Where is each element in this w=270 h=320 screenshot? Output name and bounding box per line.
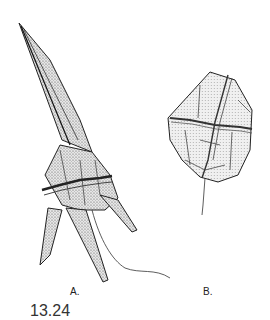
panel-a-drawing	[19, 23, 170, 282]
panel-a-label: A.	[70, 286, 79, 297]
panel-b-drawing	[168, 72, 252, 215]
panel-b-label: B.	[203, 286, 212, 297]
figure-caption-partial: 13.24	[30, 302, 70, 320]
